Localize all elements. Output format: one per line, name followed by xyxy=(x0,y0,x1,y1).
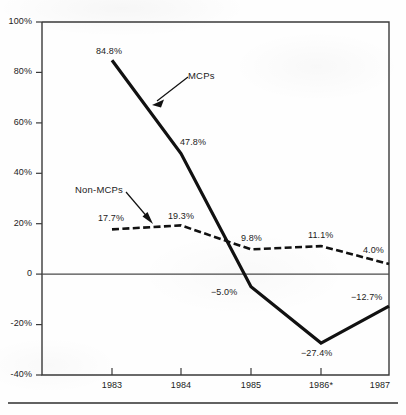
y-tick-label-neg40: -40% xyxy=(0,369,32,379)
data-label-mcps-1987: −12.7% xyxy=(351,292,382,302)
y-tick-label-60: 60% xyxy=(0,117,32,127)
y-tick-label-neg20: -20% xyxy=(0,318,32,328)
series-annotation-mcps: MCPs xyxy=(188,70,215,81)
plot-frame xyxy=(42,22,389,375)
data-label-non-mcps-1987: 4.0% xyxy=(363,245,384,255)
y-tick-label-80: 80% xyxy=(0,66,32,76)
x-axis-ticks xyxy=(112,368,321,375)
y-tick-label-20: 20% xyxy=(0,218,32,228)
mcps-annotation-arrow xyxy=(152,77,188,108)
data-label-mcps-1985: −5.0% xyxy=(211,287,237,297)
x-tick-label-1986: 1986* xyxy=(295,380,347,390)
series-annotation-non-mcps: Non-MCPs xyxy=(75,184,123,195)
y-tick-label-40: 40% xyxy=(0,167,32,177)
x-tick-label-1985: 1985 xyxy=(225,380,277,390)
x-tick-label-1983: 1983 xyxy=(86,380,138,390)
series-mcps-line xyxy=(112,60,389,343)
x-tick-label-1987: 1987 xyxy=(360,380,400,390)
y-axis-ticks xyxy=(36,22,42,375)
data-label-non-mcps-1985: 9.8% xyxy=(241,233,262,243)
non-mcps-annotation-arrow xyxy=(126,192,153,224)
chart-page: 100% 80% 60% 40% 20% 0 -20% -40% 1983 19… xyxy=(0,0,406,415)
data-label-mcps-1983: 84.8% xyxy=(96,46,122,56)
series-non-mcps-line xyxy=(112,225,389,264)
y-tick-label-100: 100% xyxy=(0,16,32,26)
data-label-mcps-1984: 47.8% xyxy=(180,137,206,147)
data-label-non-mcps-1983: 17.7% xyxy=(98,213,124,223)
data-label-mcps-1986: −27.4% xyxy=(301,348,332,358)
y-tick-label-0: 0 xyxy=(0,268,32,278)
x-tick-label-1984: 1984 xyxy=(155,380,207,390)
line-chart-graphic xyxy=(0,0,406,415)
data-label-non-mcps-1986: 11.1% xyxy=(308,230,333,240)
data-label-non-mcps-1984: 19.3% xyxy=(168,211,194,221)
